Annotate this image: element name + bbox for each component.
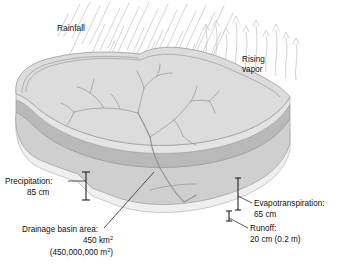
rainfall-label: Rainfall xyxy=(57,23,85,33)
basin-area-m-open: (450,000,000 m xyxy=(50,248,108,257)
drainage-basin-label-line1: Drainage basin area: xyxy=(22,225,98,234)
precipitation-label-line2: 85 cm xyxy=(27,188,49,197)
runoff-label-line1: Runoff: xyxy=(250,224,276,233)
basin-area-km-exponent: 2 xyxy=(110,235,113,241)
rising-vapor-label-line2: vapor xyxy=(242,65,263,74)
evapotranspiration-leader xyxy=(238,196,252,203)
water-balance-diagram: Rainfall Rising vapor Precipitation: 85 … xyxy=(0,0,342,264)
runoff-label-line2: 20 cm (0.2 m) xyxy=(250,235,301,244)
precipitation-label-line1: Precipitation: xyxy=(5,177,52,186)
runoff-leader xyxy=(229,218,248,228)
basin-area-km-value: 450 km xyxy=(83,236,110,245)
rising-vapor-label-line1: Rising xyxy=(242,55,265,64)
evapotranspiration-label-line1: Evapotranspiration: xyxy=(254,199,325,208)
drainage-basin-label-line2: 450 km2 xyxy=(83,235,113,245)
evapotranspiration-label-line2: 65 cm xyxy=(254,210,276,219)
drainage-basin-label-line3: (450,000,000 m2) xyxy=(50,247,113,257)
basin-area-m-close: ) xyxy=(110,248,113,257)
diagram-canvas: Rainfall Rising vapor Precipitation: 85 … xyxy=(0,0,342,264)
